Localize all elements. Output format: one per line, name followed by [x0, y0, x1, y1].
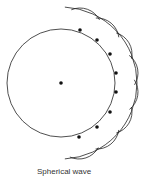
secondary-wavelet-arc [116, 107, 132, 133]
wavelet-source-dot [108, 52, 112, 56]
huygens-diagram [0, 0, 161, 181]
caption: Spherical wave [37, 167, 91, 176]
secondary-wavelet-arc [96, 130, 119, 149]
secondary-wavelet-arc [129, 55, 138, 85]
envelope-wavefront [65, 7, 137, 159]
wavelet-source-dot [77, 135, 81, 139]
wavelet-source-dot [95, 125, 99, 129]
wavelet-source-dot [114, 90, 118, 94]
secondary-wavelet-arc [129, 80, 138, 110]
wavelet-source-dot [95, 38, 99, 42]
wavelet-source-dot [78, 28, 82, 32]
wavelet-source-dot [114, 71, 118, 75]
secondary-wavelet-arc [71, 8, 99, 20]
source-point [59, 81, 63, 85]
wavelet-source-dot [108, 110, 112, 114]
secondary-wavelet-arc [70, 148, 98, 159]
secondary-wavelet-arc [96, 18, 119, 37]
